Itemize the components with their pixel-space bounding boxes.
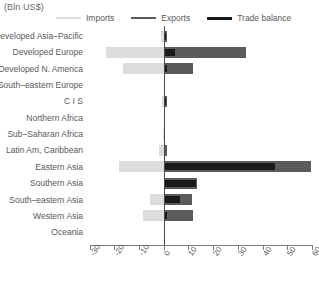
axis-tick-label: 10 bbox=[187, 246, 199, 258]
axis-tick-label: 20 bbox=[212, 246, 224, 258]
axis-tick-label: 0 bbox=[163, 249, 172, 257]
bar-exports bbox=[164, 210, 194, 221]
bar-imports bbox=[123, 63, 164, 74]
bar-exports bbox=[164, 63, 194, 74]
value-axis: -30-20-100102030405060 bbox=[0, 245, 319, 284]
legend-label-imports: Imports bbox=[86, 14, 114, 23]
units-label: (Bln US$) bbox=[4, 2, 44, 12]
bar-exports bbox=[164, 47, 247, 58]
bar-trade-balance bbox=[164, 49, 175, 56]
axis-tick-label: 50 bbox=[286, 246, 298, 258]
legend-item-imports: Imports bbox=[56, 14, 114, 23]
legend-label-balance: Trade balance bbox=[237, 14, 291, 23]
legend-label-exports: Exports bbox=[161, 14, 190, 23]
bar-trade-balance bbox=[164, 180, 196, 187]
bar-imports bbox=[143, 210, 164, 221]
imports-swatch-icon bbox=[56, 17, 81, 19]
bar-imports bbox=[106, 47, 164, 58]
legend-item-exports: Exports bbox=[131, 14, 190, 23]
zero-axis-line bbox=[164, 26, 165, 247]
exports-swatch-icon bbox=[131, 17, 156, 19]
axis-tick-label: 40 bbox=[262, 246, 274, 258]
bars-layer bbox=[0, 30, 319, 245]
balance-swatch-icon bbox=[207, 17, 232, 20]
axis-tick-label: 60 bbox=[311, 246, 319, 258]
legend-item-balance: Trade balance bbox=[207, 14, 291, 23]
chart-legend: Imports Exports Trade balance bbox=[56, 14, 291, 23]
bar-trade-balance bbox=[164, 196, 180, 203]
axis-tick-label: 30 bbox=[237, 246, 249, 258]
bar-trade-balance bbox=[164, 163, 275, 170]
bar-imports bbox=[150, 194, 164, 205]
bar-imports bbox=[119, 161, 164, 172]
plot-area: Developed Asia–PacificDeveloped EuropeDe… bbox=[0, 30, 319, 245]
chart-container: (Bln US$) Imports Exports Trade balance … bbox=[0, 0, 319, 284]
